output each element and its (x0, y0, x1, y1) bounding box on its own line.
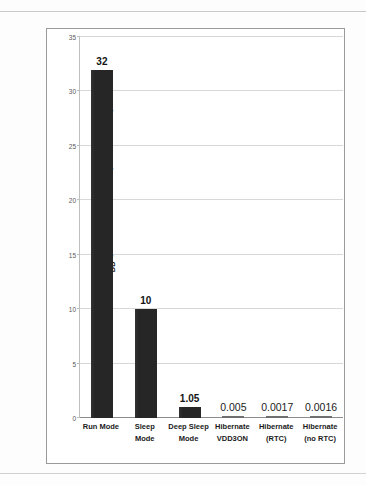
x-axis-category-labels: Run ModeSleepModeDeep SleepModeHibernate… (79, 421, 343, 461)
bar-value-label: 10 (140, 295, 151, 306)
bar-group[interactable]: 0.0016 (299, 37, 343, 418)
bar[interactable] (310, 416, 332, 418)
y-tick-label: 35 (69, 34, 76, 41)
x-category-label: SleepMode (123, 421, 167, 444)
bar-group[interactable]: 32 (80, 37, 124, 418)
bar-value-label: 1.05 (180, 393, 199, 404)
bar-value-label: 0.0017 (261, 401, 293, 413)
plot-area: 0510152025303532101.050.0050.00170.0016 (79, 37, 343, 418)
x-category-line: (no RTC) (298, 433, 342, 445)
bar-value-label: 0.005 (220, 401, 246, 413)
bar-value-label: 32 (96, 56, 107, 67)
bar[interactable] (222, 416, 244, 418)
bar-group[interactable]: 1.05 (168, 37, 212, 418)
x-category-label: HibernateVDD3ON (211, 421, 255, 444)
x-category-line: Run Mode (79, 421, 123, 433)
bar[interactable] (135, 309, 157, 418)
y-tick-label: 30 (69, 88, 76, 95)
bar-group[interactable]: 10 (124, 37, 168, 418)
x-category-line: Hibernate (211, 421, 255, 433)
page-rule-top (0, 11, 366, 12)
x-category-line: (RTC) (254, 433, 298, 445)
x-category-line: VDD3ON (211, 433, 255, 445)
bar-group[interactable]: 0.0017 (255, 37, 299, 418)
y-tick-label: 25 (69, 142, 76, 149)
x-category-label: Run Mode (79, 421, 123, 433)
bar[interactable] (179, 407, 201, 418)
x-category-line: Deep Sleep (167, 421, 211, 433)
x-category-line: Hibernate (254, 421, 298, 433)
x-category-label: Hibernate(RTC) (254, 421, 298, 444)
y-tick-label: 20 (69, 197, 76, 204)
y-tick-label: 0 (72, 415, 76, 422)
page-rule-bottom (0, 473, 366, 474)
x-category-line: Hibernate (298, 421, 342, 433)
x-category-label: Hibernate(no RTC) (298, 421, 342, 444)
y-tick-label: 10 (69, 306, 76, 313)
bar-value-label: 0.0016 (305, 401, 337, 413)
y-tick-label: 5 (72, 360, 76, 367)
x-category-line: Sleep (123, 421, 167, 433)
x-category-label: Deep SleepMode (167, 421, 211, 444)
x-category-line: Mode (123, 433, 167, 445)
y-tick-label: 15 (69, 251, 76, 258)
bar-group[interactable]: 0.005 (212, 37, 256, 418)
bar[interactable] (266, 416, 288, 418)
x-category-line: Mode (167, 433, 211, 445)
bar[interactable] (91, 70, 113, 418)
chart-frame: IDD (Current Consumption in mA) 05101520… (46, 28, 345, 464)
